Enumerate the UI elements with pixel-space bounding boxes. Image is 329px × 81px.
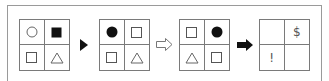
play-triangle-icon (80, 39, 88, 51)
cell (205, 20, 230, 45)
dollar-symbol: $ (293, 26, 301, 38)
hollow-arrow-icon (156, 38, 173, 51)
cell (45, 45, 70, 70)
square-outline-icon (106, 52, 117, 63)
cell (100, 45, 125, 70)
circle-outline-icon (26, 26, 38, 38)
panel-3 (179, 19, 230, 71)
square-outline-icon (211, 52, 222, 63)
square-outline-icon (186, 27, 197, 38)
cell: $ (285, 20, 310, 45)
triangle-outline-icon (185, 52, 199, 64)
cell (260, 20, 285, 45)
square-filled-icon (51, 27, 62, 38)
cell (45, 20, 70, 45)
circle-filled-icon (106, 26, 118, 38)
cell (100, 20, 125, 45)
cell (180, 45, 205, 70)
cell (20, 20, 45, 45)
cell (125, 20, 150, 45)
cell (180, 20, 205, 45)
circle-filled-icon (211, 26, 223, 38)
cell (20, 45, 45, 70)
triangle-outline-icon (130, 52, 144, 64)
cell (125, 45, 150, 70)
block-arrow-icon (237, 39, 253, 51)
triangle-outline-icon (50, 52, 64, 64)
panel-4: $ ! (259, 19, 310, 71)
panel-2 (99, 19, 150, 71)
square-outline-icon (26, 52, 37, 63)
panel-1 (19, 19, 70, 71)
cell (205, 45, 230, 70)
exclamation-symbol: ! (269, 52, 274, 64)
cell (285, 45, 310, 70)
cell: ! (260, 45, 285, 70)
square-outline-icon (131, 27, 142, 38)
